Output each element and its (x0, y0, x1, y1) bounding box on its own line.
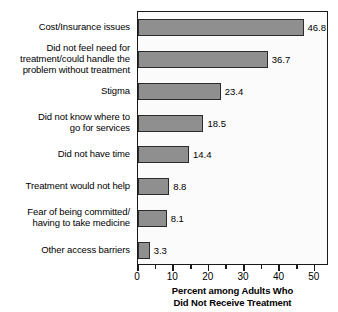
category-label-line: problem without treatment (0, 64, 130, 75)
category-label: Other access barriers (0, 244, 130, 255)
bar-value-label: 36.7 (272, 54, 291, 65)
x-tick-minor (261, 265, 263, 269)
bar-value-label: 8.8 (173, 181, 186, 192)
bar-value-label: 8.1 (171, 213, 184, 224)
bar (138, 210, 167, 227)
x-tick-label: 20 (202, 271, 213, 283)
category-label: Did not feel need fortreatment/could han… (0, 42, 130, 75)
bar (138, 242, 150, 259)
x-tick-minor (190, 265, 192, 269)
bar-value-label: 23.4 (225, 86, 244, 97)
x-tick-minor (225, 265, 227, 269)
x-axis-title-line: Did Not Receive Treatment (137, 297, 328, 309)
category-label: Stigma (0, 85, 130, 96)
bar-value-label: 14.4 (193, 149, 212, 160)
bar-value-label: 3.3 (154, 245, 167, 256)
category-label-line: Did not know where to (0, 111, 130, 122)
plot-area: 46.836.723.418.514.48.88.13.3 (137, 11, 328, 265)
category-label-line: Cost/Insurance issues (0, 21, 130, 32)
bar-chart-figure: Cost/Insurance issuesDid not feel need f… (0, 0, 338, 312)
category-label-column: Cost/Insurance issuesDid not feel need f… (0, 11, 134, 265)
category-label-line: Fear of being committed/ (0, 206, 130, 217)
x-tick-minor (296, 265, 298, 269)
x-tick-label: 0 (134, 271, 140, 283)
bar (138, 178, 169, 195)
bar (138, 19, 304, 36)
category-label: Treatment would not help (0, 180, 130, 191)
category-label-line: treatment/could handle the (0, 53, 130, 64)
bar (138, 146, 189, 163)
category-label-line: Treatment would not help (0, 180, 130, 191)
x-axis-title-line: Percent among Adults Who (137, 285, 328, 297)
bar (138, 83, 221, 100)
x-tick-minor (155, 265, 157, 269)
bar-value-label: 18.5 (207, 118, 226, 129)
x-tick-label: 50 (308, 271, 319, 283)
category-label: Did not have time (0, 148, 130, 159)
x-tick-label: 10 (167, 271, 178, 283)
bar (138, 51, 268, 68)
category-label-line: go for services (0, 122, 130, 133)
category-label: Fear of being committed/having to take m… (0, 206, 130, 228)
category-label-line: Other access barriers (0, 244, 130, 255)
category-label-line: having to take medicine (0, 217, 130, 228)
category-label-line: Did not feel need for (0, 42, 130, 53)
x-tick-label: 30 (238, 271, 249, 283)
x-axis-title: Percent among Adults WhoDid Not Receive … (137, 285, 328, 308)
bar-value-label: 46.8 (308, 22, 327, 33)
category-label-line: Did not have time (0, 148, 130, 159)
x-tick-label: 40 (273, 271, 284, 283)
x-axis-tick-labels: 01020304050 (137, 271, 328, 284)
bar (138, 115, 203, 132)
category-label-line: Stigma (0, 85, 130, 96)
category-label: Cost/Insurance issues (0, 21, 130, 32)
category-label: Did not know where togo for services (0, 111, 130, 133)
